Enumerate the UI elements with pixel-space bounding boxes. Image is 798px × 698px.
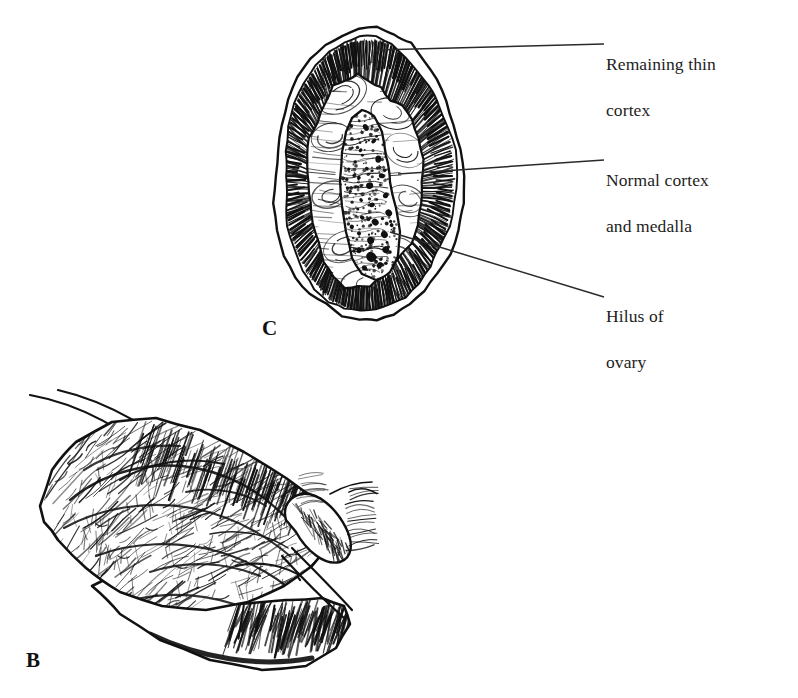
panel-c-ovary-cross-section	[273, 27, 604, 321]
label-normal-cortex-and-medalla: Normal cortex and medalla	[606, 146, 709, 261]
panel-letter-b: B	[26, 648, 40, 673]
label-line-2: cortex	[606, 99, 716, 122]
label-line-2: ovary	[606, 351, 664, 374]
label-line-1: Hilus of	[606, 305, 664, 328]
label-line-1: Normal cortex	[606, 169, 709, 192]
label-remaining-thin-cortex: Remaining thin cortex	[606, 30, 716, 145]
medical-illustration-figure: Remaining thin cortex Normal cortex and …	[0, 0, 798, 698]
label-line-1: Remaining thin	[606, 53, 716, 76]
panel-letter-c: C	[262, 316, 277, 341]
label-hilus-of-ovary: Hilus of ovary	[606, 282, 664, 397]
panel-b-ovary-3d	[30, 390, 379, 670]
label-line-2: and medalla	[606, 215, 709, 238]
